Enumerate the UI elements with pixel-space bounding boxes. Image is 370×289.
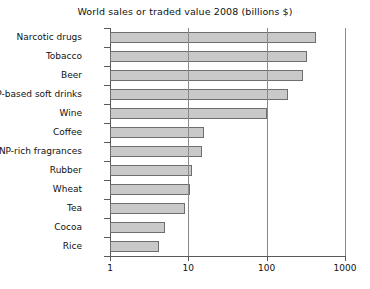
bar <box>110 184 190 195</box>
y-tick <box>104 199 110 200</box>
y-tick <box>104 123 110 124</box>
bar <box>110 127 204 138</box>
category-label: Rice <box>0 241 82 251</box>
gridline <box>188 28 189 256</box>
chart-container: World sales or traded value 2008 (billio… <box>0 0 370 289</box>
category-label: Coffee <box>0 127 82 137</box>
category-label: Rubber <box>0 165 82 175</box>
y-tick <box>104 47 110 48</box>
x-tick <box>110 256 111 261</box>
bar <box>110 222 165 233</box>
gridline <box>345 28 346 256</box>
bar <box>110 203 185 214</box>
category-label: Narcotic drugs <box>0 32 82 42</box>
y-tick <box>104 85 110 86</box>
gridline <box>267 28 268 256</box>
category-label: Wheat <box>0 184 82 194</box>
x-tick <box>267 256 268 261</box>
y-tick <box>104 142 110 143</box>
y-tick <box>104 218 110 219</box>
category-label: Cocoa <box>0 222 82 232</box>
x-tick-label: 10 <box>183 263 194 273</box>
x-tick <box>188 256 189 261</box>
bar <box>110 51 307 62</box>
y-tick <box>104 161 110 162</box>
category-label: Tea <box>0 203 82 213</box>
bar <box>110 165 192 176</box>
y-tick <box>104 237 110 238</box>
category-label: NP-rich fragrances <box>0 146 82 156</box>
category-label: Tobacco <box>0 51 82 61</box>
x-axis-line <box>110 256 346 257</box>
bar <box>110 241 159 252</box>
y-tick <box>104 180 110 181</box>
x-tick-label: 1 <box>107 263 113 273</box>
y-tick <box>104 104 110 105</box>
x-tick-label: 1000 <box>334 263 357 273</box>
x-tick <box>345 256 346 261</box>
bar <box>110 89 288 100</box>
category-label: Wine <box>0 108 82 118</box>
category-label: Beer <box>0 70 82 80</box>
x-tick-label: 100 <box>258 263 275 273</box>
bar <box>110 70 303 81</box>
bar <box>110 32 316 43</box>
chart-title: World sales or traded value 2008 (billio… <box>0 6 370 17</box>
y-tick <box>104 66 110 67</box>
category-label: NP-based soft drinks <box>0 89 82 99</box>
y-tick <box>104 28 110 29</box>
